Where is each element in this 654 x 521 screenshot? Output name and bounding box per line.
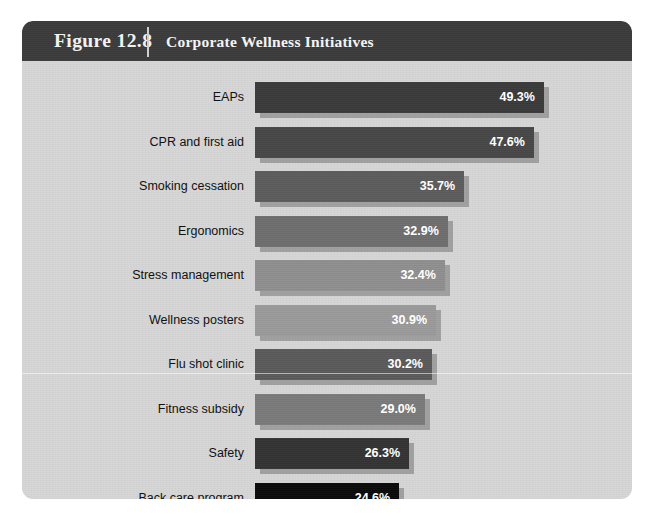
bar-value-label: 47.6% (489, 127, 524, 158)
bar-row: Fitness subsidy29.0% (22, 394, 632, 438)
bar-row: Wellness posters30.9% (22, 305, 632, 349)
bar-row: Safety26.3% (22, 438, 632, 482)
bar-row: CPR and first aid47.6% (22, 127, 632, 171)
bar[interactable]: 24.6% (255, 483, 399, 500)
bar-value-label: 29.0% (380, 394, 415, 425)
bar-category-label: Back care program (138, 483, 244, 500)
header-divider (147, 27, 149, 57)
bar[interactable]: 47.6% (255, 127, 534, 158)
bar-category-label: Safety (209, 438, 244, 469)
bar[interactable]: 32.9% (255, 216, 448, 247)
bar-category-label: Smoking cessation (139, 171, 244, 202)
bar-value-label: 30.2% (388, 349, 423, 380)
bar-value-label: 30.9% (392, 305, 427, 336)
bar-value-label: 35.7% (420, 171, 455, 202)
bar[interactable]: 32.4% (255, 260, 445, 291)
bar-value-label: 49.3% (499, 82, 534, 113)
bar[interactable]: 30.9% (255, 305, 436, 336)
figure-header: Figure 12.8 Corporate Wellness Initiativ… (22, 21, 632, 61)
bar-value-label: 32.4% (400, 260, 435, 291)
bar-category-label: Fitness subsidy (158, 394, 244, 425)
bar[interactable]: 35.7% (255, 171, 464, 202)
bar-category-label: CPR and first aid (150, 127, 244, 158)
bar-category-label: Ergonomics (178, 216, 244, 247)
bar-row: Ergonomics32.9% (22, 216, 632, 260)
bar[interactable]: 26.3% (255, 438, 409, 469)
bar-value-label: 32.9% (403, 216, 438, 247)
bar-category-label: Wellness posters (149, 305, 244, 336)
bar-row: Stress management32.4% (22, 260, 632, 304)
bar-row: Smoking cessation35.7% (22, 171, 632, 215)
figure-card: Figure 12.8 Corporate Wellness Initiativ… (22, 21, 632, 499)
bar[interactable]: 49.3% (255, 82, 544, 113)
bar-row: Flu shot clinic30.2% (22, 349, 632, 393)
figure-title: Corporate Wellness Initiatives (166, 21, 374, 61)
bar-value-label: 24.6% (355, 483, 390, 500)
figure-number-label: Figure 12.8 (54, 21, 152, 61)
bar-category-label: EAPs (213, 82, 244, 113)
bar-row: EAPs49.3% (22, 82, 632, 126)
bar[interactable]: 29.0% (255, 394, 425, 425)
bar-value-label: 26.3% (365, 438, 400, 469)
bar-chart-plot-area: EAPs49.3%CPR and first aid47.6%Smoking c… (22, 61, 632, 499)
bar-category-label: Stress management (132, 260, 244, 291)
bar[interactable]: 30.2% (255, 349, 432, 380)
bar-category-label: Flu shot clinic (168, 349, 244, 380)
bar-row: Back care program24.6% (22, 483, 632, 500)
